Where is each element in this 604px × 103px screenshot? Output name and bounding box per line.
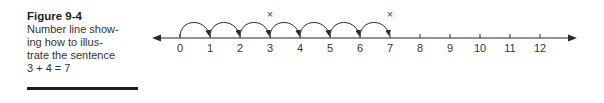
number-line-axis <box>152 35 577 42</box>
tick-label: 3 <box>267 42 273 54</box>
number-line-diagram: 0123456789101112 ×× <box>0 0 604 103</box>
hop-arrow-icon <box>360 22 389 37</box>
right-arrowhead-icon <box>568 35 577 42</box>
tick-label: 12 <box>534 42 546 54</box>
tick-label: 6 <box>357 42 363 54</box>
tick-label: 1 <box>207 42 213 54</box>
tick-label: 9 <box>447 42 453 54</box>
tick-label: 10 <box>474 42 486 54</box>
hop-arrow-icon <box>240 22 269 37</box>
number-line-marks: ×× <box>267 8 393 20</box>
number-line-hops <box>180 22 389 37</box>
hop-arrow-icon <box>300 22 329 37</box>
cross-mark-icon: × <box>387 8 393 20</box>
hop-arrow-icon <box>330 22 359 37</box>
tick-label: 4 <box>297 42 303 54</box>
tick-label: 2 <box>237 42 243 54</box>
left-arrowhead-icon <box>152 35 161 42</box>
hop-arrow-icon <box>210 22 239 37</box>
cross-mark-icon: × <box>267 8 273 20</box>
tick-label: 8 <box>417 42 423 54</box>
hop-arrow-icon <box>270 22 299 37</box>
tick-label: 11 <box>504 42 515 54</box>
hop-arrow-icon <box>180 22 209 37</box>
tick-label: 7 <box>387 42 393 54</box>
tick-label: 5 <box>327 42 333 54</box>
tick-label: 0 <box>177 42 183 54</box>
number-line-ticks: 0123456789101112 <box>177 34 546 54</box>
